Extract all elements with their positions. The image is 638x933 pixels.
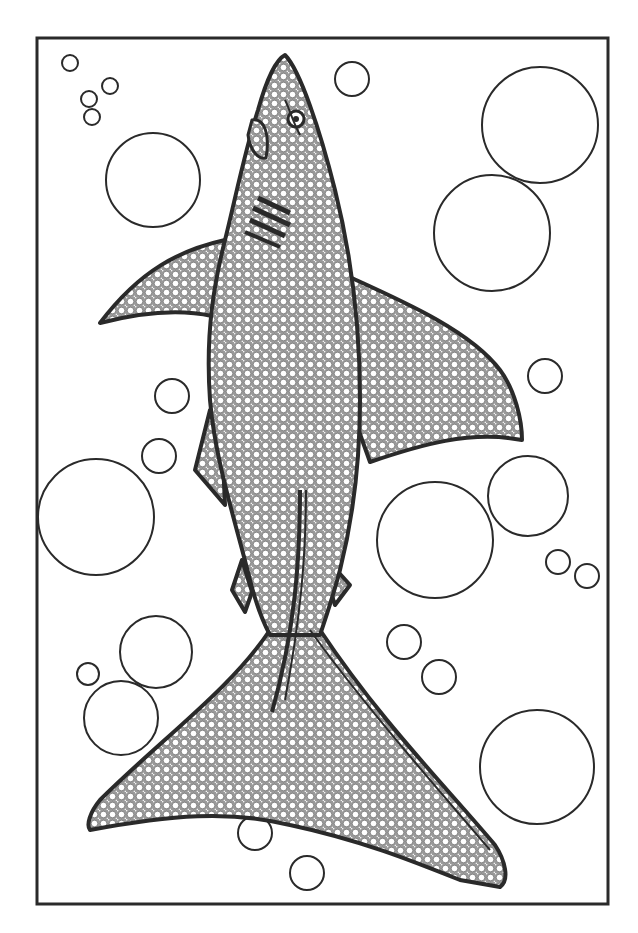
bubble [575, 564, 599, 588]
bubble [422, 660, 456, 694]
bubble [546, 550, 570, 574]
bubble [102, 78, 118, 94]
bubble [142, 439, 176, 473]
bubble [81, 91, 97, 107]
bubble [155, 379, 189, 413]
bubble [488, 456, 568, 536]
bubble [120, 616, 192, 688]
bubble [290, 856, 324, 890]
shark-coloring-page [0, 0, 638, 933]
bubble [528, 359, 562, 393]
bubble [377, 482, 493, 598]
bubble [335, 62, 369, 96]
shark [88, 55, 522, 887]
bubble [480, 710, 594, 824]
tail-fin [88, 630, 505, 887]
bubble [482, 67, 598, 183]
bubble [84, 109, 100, 125]
bubble [434, 175, 550, 291]
shark-body [209, 55, 360, 635]
bubble [38, 459, 154, 575]
bubble [77, 663, 99, 685]
bubble [84, 681, 158, 755]
bubble [62, 55, 78, 71]
bubble [106, 133, 200, 227]
right-pectoral-fin [345, 275, 522, 462]
bubble [387, 625, 421, 659]
